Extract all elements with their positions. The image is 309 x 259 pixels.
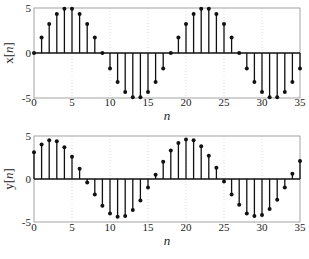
stem-marker [47, 22, 51, 26]
stem-marker [123, 90, 127, 94]
stem-marker [154, 80, 158, 84]
x-tick-label: 10 [105, 96, 117, 108]
stem-marker [154, 173, 158, 177]
stem-marker [108, 66, 112, 70]
stem-marker [123, 214, 127, 218]
stem-marker [176, 36, 180, 40]
stem-marker [298, 66, 302, 70]
x-tick-label: 35 [295, 96, 307, 108]
stem-marker [290, 172, 294, 176]
stem-marker [161, 66, 165, 70]
stem-marker [40, 36, 44, 40]
stem-marker [252, 214, 256, 218]
y-axis-label: y[n] [1, 168, 16, 190]
stem-marker [214, 166, 218, 170]
x-tick-label: 10 [105, 221, 117, 233]
stem-marker [146, 90, 150, 94]
stem-marker [283, 90, 287, 94]
stem-marker [207, 154, 211, 158]
stem-marker [40, 143, 44, 147]
stem-marker [252, 80, 256, 84]
x-tick-label: 20 [181, 221, 193, 233]
stem-marker [32, 150, 36, 154]
x-tick-label: 20 [181, 96, 193, 108]
stem-marker [55, 139, 59, 143]
stem-marker [32, 51, 36, 55]
stem-marker [184, 22, 188, 26]
y-tick-label: 5 [26, 2, 32, 14]
stem-marker [260, 213, 264, 217]
stem-marker [131, 208, 135, 212]
stem-marker [245, 211, 249, 215]
stem-marker [85, 180, 89, 184]
x-axis-label: n [164, 108, 171, 123]
stem-marker [47, 138, 51, 142]
stem-marker [184, 137, 188, 141]
x-tick-label: 25 [219, 96, 231, 108]
y-tick-label: -5 [22, 216, 32, 228]
stem-marker [131, 95, 135, 99]
stem-marker [146, 186, 150, 190]
stem-marker [260, 90, 264, 94]
x-tick-label: 15 [143, 96, 155, 108]
stem-marker [192, 12, 196, 16]
stem-marker [100, 51, 104, 55]
stem-marker [55, 12, 59, 16]
stem-marker [290, 80, 294, 84]
x-tick-label: 30 [257, 96, 269, 108]
stem-marker [108, 211, 112, 215]
stem-marker [78, 12, 82, 16]
x-tick-label: 5 [69, 221, 75, 233]
stem-marker [275, 198, 279, 202]
stem-marker [207, 7, 211, 11]
stem-marker [222, 180, 226, 184]
x-axis-label: n [164, 233, 171, 248]
stem-marker [283, 186, 287, 190]
stem-marker [192, 138, 196, 142]
stem-marker [169, 149, 173, 153]
stem-marker [116, 80, 120, 84]
stem-marker [275, 95, 279, 99]
x-tick-label: 30 [257, 221, 269, 233]
x-tick-label: 5 [69, 96, 75, 108]
stem-marker [298, 159, 302, 163]
stem-marker [245, 66, 249, 70]
stem-marker [199, 144, 203, 148]
y-tick-label: 5 [26, 130, 32, 142]
y-tick-label: 0 [26, 47, 32, 59]
stem-marker [214, 12, 218, 16]
stem-marker [268, 207, 272, 211]
y-signal-panel: 05101520253035-505ny[n] [1, 130, 306, 248]
y-tick-label: -5 [22, 92, 32, 104]
stem-marker [62, 145, 66, 149]
stem-marker [230, 192, 234, 196]
x-tick-label: 25 [219, 221, 231, 233]
stem-plot-figure: 05101520253035-505nx[n] 05101520253035-5… [0, 0, 309, 259]
stem-marker [169, 51, 173, 55]
stem-marker [176, 141, 180, 145]
stem-marker [70, 155, 74, 159]
stem-marker [237, 51, 241, 55]
stem-marker [85, 22, 89, 26]
stem-marker [237, 203, 241, 207]
x-tick-label: 15 [143, 221, 155, 233]
stem-marker [222, 22, 226, 26]
x-signal-panel: 05101520253035-505nx[n] [1, 2, 306, 123]
stem-marker [70, 7, 74, 11]
stem-marker [199, 7, 203, 11]
stem-marker [62, 7, 66, 11]
y-tick-label: 0 [26, 173, 32, 185]
y-axis-label: x[n] [1, 42, 16, 64]
x-tick-label: 0 [31, 96, 37, 108]
stem-marker [161, 160, 165, 164]
stem-marker [93, 192, 97, 196]
x-tick-label: 0 [31, 221, 37, 233]
stem-marker [268, 95, 272, 99]
stem-marker [78, 167, 82, 171]
stem-marker [116, 215, 120, 219]
x-tick-label: 35 [295, 221, 307, 233]
stem-marker [138, 199, 142, 203]
stem-marker [230, 36, 234, 40]
stem-marker [93, 36, 97, 40]
stem-marker [100, 204, 104, 208]
